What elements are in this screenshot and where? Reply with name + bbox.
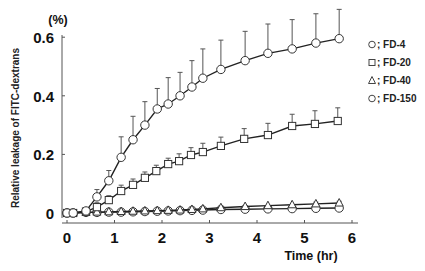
x-ticks: 0123456 <box>63 220 356 246</box>
x-axis-title: Time (hr) <box>284 249 337 263</box>
triangle-marker <box>335 199 343 207</box>
circle-marker <box>164 100 172 108</box>
legend-label: ; FD-4 <box>377 39 406 50</box>
circle-marker <box>176 92 184 100</box>
y-unit-label: (%) <box>48 13 67 27</box>
circle-marker <box>188 83 196 91</box>
legend: ; FD-4; FD-20; FD-40; FD-150 <box>369 39 417 104</box>
circle-marker <box>264 49 272 57</box>
legend-label: ; FD-150 <box>377 93 417 104</box>
x-tick-label: 0 <box>63 229 71 246</box>
square-marker <box>264 131 271 138</box>
square-marker <box>289 122 296 129</box>
circle-symbol-icon <box>369 41 376 48</box>
square-marker <box>311 120 318 127</box>
legend-label: ; FD-20 <box>377 57 411 68</box>
y-tick-label: 0 <box>46 205 54 222</box>
square-marker <box>153 168 160 175</box>
x-tick-label: 3 <box>205 229 213 246</box>
legend-item-fd-4: ; FD-4 <box>369 39 406 50</box>
circle-marker <box>105 177 113 185</box>
square-marker <box>105 197 112 204</box>
x-tick-label: 1 <box>110 229 118 246</box>
y-tick-label: 0.2 <box>33 146 54 163</box>
legend-item-fd-40: ; FD-40 <box>369 75 412 86</box>
plot-area <box>63 9 344 217</box>
square-marker <box>199 148 206 155</box>
square-marker <box>241 135 248 142</box>
circle-marker <box>288 45 296 53</box>
x-tick-label: 4 <box>253 229 262 246</box>
legend-item-fd-20: ; FD-20 <box>369 57 411 68</box>
circle-marker <box>117 153 125 161</box>
series-fd-20 <box>63 108 341 217</box>
square-marker <box>118 187 125 194</box>
circle-marker <box>129 136 137 144</box>
circle-marker <box>141 121 149 129</box>
square-marker <box>93 204 100 211</box>
series-fd-4 <box>63 9 344 217</box>
square-marker <box>129 181 136 188</box>
square-marker <box>141 174 148 181</box>
circle-marker <box>69 209 77 217</box>
square-marker <box>217 142 224 149</box>
circle-marker <box>82 207 90 215</box>
triangle-symbol-icon <box>369 77 376 84</box>
y-ticks: 00.20.40.6 <box>33 29 65 222</box>
circle-marker <box>312 39 320 47</box>
y-tick-label: 0.4 <box>33 88 55 105</box>
circle-marker <box>199 74 207 82</box>
square-marker <box>165 160 172 167</box>
y-tick-label: 0.6 <box>33 29 54 46</box>
circle-marker <box>335 34 343 42</box>
circle-marker <box>241 56 249 64</box>
square-marker <box>187 151 194 158</box>
y-axis-title: Relative leakage of FITC-dextrans <box>10 48 21 208</box>
circle-marker <box>153 105 161 113</box>
circle-symbol-icon <box>369 95 376 102</box>
axes <box>62 35 358 223</box>
square-marker <box>334 117 341 124</box>
legend-label: ; FD-40 <box>377 75 411 86</box>
legend-item-fd-150: ; FD-150 <box>369 93 417 104</box>
square-symbol-icon <box>369 60 375 66</box>
circle-marker <box>93 193 101 201</box>
leakage-chart: 00.20.40.6 0123456 (%) Relative leakage … <box>0 0 425 271</box>
x-tick-label: 2 <box>158 229 166 246</box>
circle-marker <box>217 65 225 73</box>
x-tick-label: 5 <box>300 229 308 246</box>
square-marker <box>176 158 183 165</box>
x-tick-label: 6 <box>348 229 356 246</box>
